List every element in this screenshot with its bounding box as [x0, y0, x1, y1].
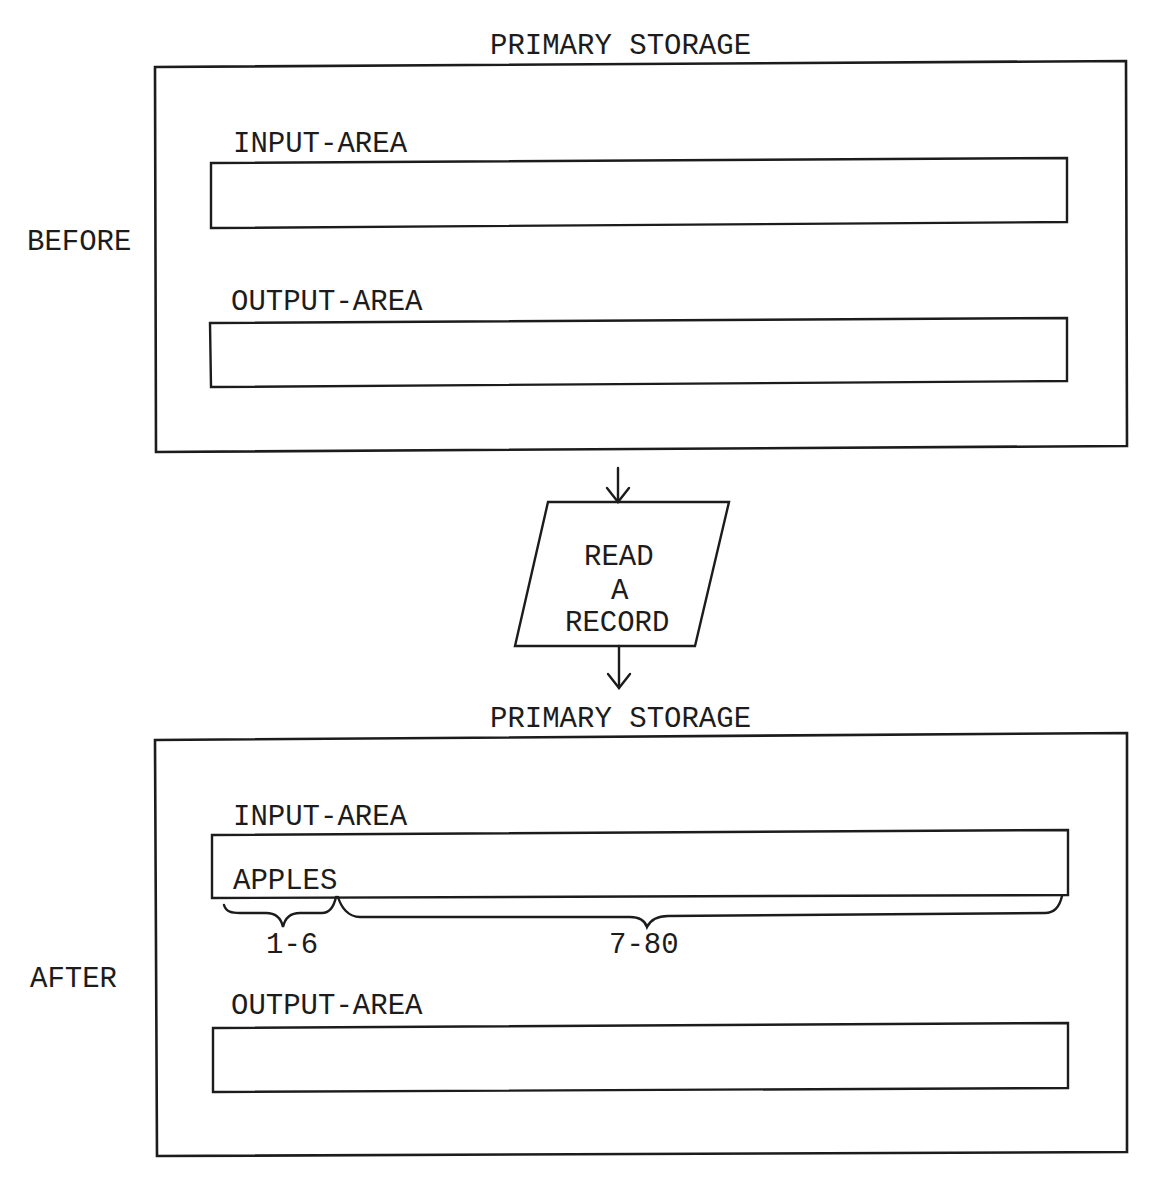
- after-input-area-contents: APPLES: [233, 867, 337, 896]
- arrow-down-icon: [608, 646, 630, 688]
- io-symbol-line-1: READ: [584, 543, 654, 572]
- brace-positions-7-80: [338, 896, 1062, 927]
- before-storage-title: PRIMARY STORAGE: [490, 32, 751, 61]
- brace-positions-1-6: [224, 897, 336, 927]
- arrow-down-icon: [607, 468, 629, 502]
- io-symbol-line-2: A: [611, 577, 628, 606]
- after-output-area-label: OUTPUT-AREA: [231, 992, 422, 1021]
- after-side-label: AFTER: [30, 965, 117, 994]
- io-symbol-line-3: RECORD: [565, 609, 669, 638]
- after-input-area-label: INPUT-AREA: [233, 803, 407, 832]
- range-label-7-80: 7-80: [609, 931, 679, 960]
- after-input-area-box: [212, 830, 1068, 898]
- before-primary-storage-box: [155, 61, 1127, 452]
- diagram-canvas: [0, 0, 1160, 1187]
- before-output-area-box: [210, 318, 1067, 387]
- after-output-area-box: [213, 1023, 1068, 1092]
- before-side-label: BEFORE: [27, 228, 131, 257]
- before-input-area-label: INPUT-AREA: [233, 130, 407, 159]
- after-storage-title: PRIMARY STORAGE: [490, 705, 751, 734]
- range-label-1-6: 1-6: [266, 931, 318, 960]
- before-output-area-label: OUTPUT-AREA: [231, 288, 422, 317]
- before-input-area-box: [211, 158, 1067, 228]
